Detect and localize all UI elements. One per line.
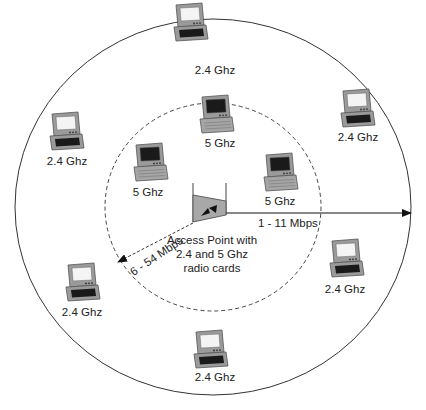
- laptop-icon-lower-right: [330, 239, 364, 277]
- outer-rate-label: 1 - 11 Mbps: [258, 217, 318, 229]
- client-label-upper-right: 2.4 Ghz: [338, 131, 378, 143]
- laptop-icon-lower-left: [66, 263, 100, 301]
- laptop-icon-bottom: [194, 330, 228, 368]
- client-label-inner-top: 5 Ghz: [205, 137, 236, 149]
- client-label-bottom: 2.4 Ghz: [195, 371, 235, 383]
- laptop-icon-upper-right: [341, 89, 375, 127]
- client-label-inner-right: 5 Ghz: [265, 195, 296, 207]
- client-label-inner-left: 5 Ghz: [133, 186, 164, 198]
- client-label-lower-left: 2.4 Ghz: [62, 306, 102, 318]
- client-label-top: 2.4 Ghz: [195, 64, 235, 76]
- client-label-upper-left: 2.4 Ghz: [47, 155, 87, 167]
- laptop-icon-inner-left: [134, 143, 168, 181]
- client-label-lower-right: 2.4 Ghz: [325, 283, 365, 295]
- access-point-icon: [193, 183, 226, 222]
- access-point-label-line3: radio cards: [167, 261, 257, 275]
- access-point-label-line2: 2.4 and 5 Ghz: [167, 247, 257, 261]
- coverage-diagram: [0, 0, 426, 410]
- laptop-icon-inner-top: [200, 95, 234, 133]
- laptop-icon-upper-left: [50, 112, 84, 150]
- laptop-icon-top: [174, 3, 208, 41]
- laptop-icon-inner-right: [264, 153, 298, 191]
